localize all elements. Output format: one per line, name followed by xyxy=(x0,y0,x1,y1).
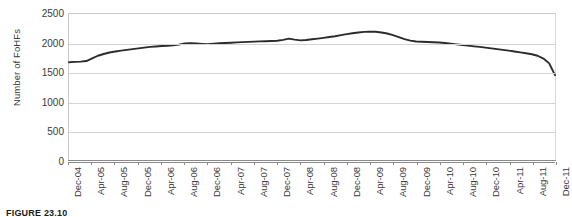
y-axis-tick-label: 500 xyxy=(28,126,64,137)
x-axis-tick-mark xyxy=(300,162,301,165)
x-axis-tick-label: Dec-08 xyxy=(351,167,362,197)
x-axis-tick-label: Aug-11 xyxy=(537,167,548,196)
x-axis-tick-mark xyxy=(254,162,255,165)
y-axis-tick-label: 1500 xyxy=(28,67,64,78)
y-axis-title: Number of FoHFs xyxy=(11,8,22,128)
x-axis-tick-labels: Dec-04Apr-05Aug-05Dec-05Apr-06Aug-06Dec-… xyxy=(68,162,556,214)
x-axis-tick-mark xyxy=(440,162,441,165)
x-axis-tick-mark xyxy=(231,162,232,165)
gridline xyxy=(69,103,555,104)
figure-root: Number of FoHFs 25002000150010005000 Dec… xyxy=(0,0,572,217)
x-axis-tick-label: Dec-11 xyxy=(560,167,571,196)
x-axis-tick-label: Apr-05 xyxy=(95,167,106,195)
x-axis-tick-mark xyxy=(347,162,348,165)
plot-area xyxy=(68,13,556,161)
x-axis-tick-label: Apr-08 xyxy=(304,167,315,195)
y-axis-tick-label: 1000 xyxy=(28,96,64,107)
x-axis-tick-label: Dec-05 xyxy=(142,167,153,197)
x-axis-tick-mark xyxy=(277,162,278,165)
x-axis-tick-label: Dec-06 xyxy=(211,167,222,197)
gridline xyxy=(69,132,555,133)
x-axis-tick-label: Apr-10 xyxy=(444,167,455,195)
x-axis-tick-label: Dec-09 xyxy=(421,167,432,197)
x-axis-tick-label: Apr-11 xyxy=(514,167,525,194)
x-axis-tick-mark xyxy=(510,162,511,165)
x-axis-tick-label: Dec-07 xyxy=(281,167,292,197)
figure-caption: FIGURE 23.10 xyxy=(6,208,67,217)
x-axis-line xyxy=(68,160,556,161)
series-polyline xyxy=(69,32,555,76)
x-axis-tick-mark xyxy=(114,162,115,165)
x-axis-tick-label: Aug-10 xyxy=(467,167,478,197)
x-axis-tick-mark xyxy=(556,162,557,165)
x-axis-tick-label: Aug-07 xyxy=(258,167,269,197)
x-axis-tick-label: Aug-09 xyxy=(397,167,408,197)
gridline xyxy=(69,73,555,74)
x-axis-tick-mark xyxy=(138,162,139,165)
gridline xyxy=(69,44,555,45)
x-axis-tick-label: Aug-05 xyxy=(118,167,129,197)
x-axis-tick-label: Aug-06 xyxy=(188,167,199,197)
y-axis-tick-labels: 25002000150010005000 xyxy=(28,0,64,217)
x-axis-tick-mark xyxy=(184,162,185,165)
x-axis-tick-label: Apr-07 xyxy=(235,167,246,195)
x-axis-tick-label: Apr-06 xyxy=(165,167,176,195)
x-axis-tick-mark xyxy=(486,162,487,165)
x-axis-tick-mark xyxy=(393,162,394,165)
series-line-chart xyxy=(69,14,555,161)
x-axis-tick-mark xyxy=(370,162,371,165)
y-axis-tick-label: 0 xyxy=(28,156,64,167)
x-axis-tick-mark xyxy=(207,162,208,165)
x-axis-tick-label: Apr-09 xyxy=(374,167,385,195)
y-axis-tick-label: 2500 xyxy=(28,8,64,19)
x-axis-tick-mark xyxy=(417,162,418,165)
y-axis-tick-label: 2000 xyxy=(28,37,64,48)
x-axis-tick-label: Aug-08 xyxy=(328,167,339,197)
x-axis-tick-mark xyxy=(324,162,325,165)
x-axis-tick-mark xyxy=(68,162,69,165)
x-axis-tick-mark xyxy=(91,162,92,165)
x-axis-tick-mark xyxy=(533,162,534,165)
x-axis-tick-label: Dec-04 xyxy=(72,167,83,197)
x-axis-tick-mark xyxy=(463,162,464,165)
x-axis-tick-mark xyxy=(161,162,162,165)
x-axis-tick-label: Dec-10 xyxy=(490,167,501,197)
